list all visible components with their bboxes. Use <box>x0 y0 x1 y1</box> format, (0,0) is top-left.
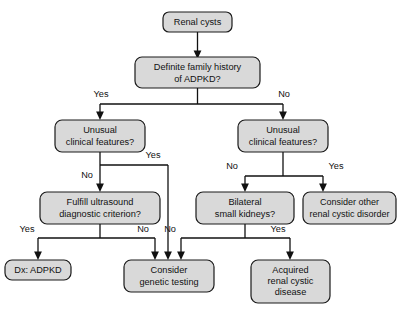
node-consider-other-line1: Consider other <box>320 197 379 207</box>
arrowhead-icon <box>177 252 185 261</box>
flowchart-svg: Yes No No Yes No Yes Yes No No Yes Renal… <box>0 0 399 315</box>
node-bilateral-small-kidneys[interactable]: Bilateral small kidneys? <box>196 192 294 224</box>
edge-label-bilateral-no: No <box>164 224 176 234</box>
node-dx-adpkd[interactable]: Dx: ADPKD <box>5 260 71 280</box>
edge-label-unusual-left-yes: Yes <box>146 150 161 160</box>
edge-label-unusual-left-no: No <box>81 170 93 180</box>
node-family-history-line2: of ADPKD? <box>174 74 220 84</box>
edge-family-history-split <box>96 88 287 120</box>
edge-renal-to-family-history <box>194 32 202 59</box>
node-unusual-left[interactable]: Unusual clinical features? <box>55 120 145 152</box>
edge-unusual-left-no <box>96 152 104 192</box>
node-bilateral-line1: Bilateral <box>228 197 261 207</box>
node-acquired-renal-cystic-disease[interactable]: Acquired renal cystic disease <box>251 260 330 303</box>
node-acquired-line2: renal cystic <box>268 276 314 286</box>
edge-label-unusual-right-no: No <box>226 161 238 171</box>
node-unusual-right-line2: clinical features? <box>249 137 317 147</box>
arrowhead-icon <box>151 252 159 261</box>
arrowhead-icon <box>241 184 249 193</box>
edge-label-bilateral-yes: Yes <box>271 224 286 234</box>
flowchart-container: Yes No No Yes No Yes Yes No No Yes Renal… <box>0 0 399 315</box>
edge-label-family-no: No <box>278 89 290 99</box>
edge-label-family-yes: Yes <box>94 89 109 99</box>
node-ultrasound-line1: Fulfill ultrasound <box>67 197 134 207</box>
node-acquired-line3: disease <box>275 287 307 297</box>
node-unusual-right[interactable]: Unusual clinical features? <box>238 120 328 152</box>
arrowhead-icon <box>96 184 104 193</box>
node-bilateral-line2: small kidneys? <box>215 209 275 219</box>
edge-label-unusual-right-yes: Yes <box>329 161 344 171</box>
node-unusual-right-line1: Unusual <box>266 125 300 135</box>
node-dx-adpkd-label: Dx: ADPKD <box>14 265 62 275</box>
node-consider-other-disorder[interactable]: Consider other renal cystic disorder <box>303 192 396 224</box>
arrowhead-icon <box>279 112 287 121</box>
node-family-history-line1: Definite family history <box>154 62 242 72</box>
node-renal-cysts-label: Renal cysts <box>174 17 222 27</box>
node-genetic-testing-line2: genetic testing <box>139 277 198 287</box>
arrowhead-icon <box>286 252 294 261</box>
node-genetic-testing[interactable]: Consider genetic testing <box>124 260 214 292</box>
node-ultrasound-line2: diagnostic criterion? <box>59 209 141 219</box>
edge-label-ultrasound-yes: Yes <box>20 224 35 234</box>
edge-unusual-right-split <box>241 152 327 192</box>
arrowhead-icon <box>319 184 327 193</box>
node-unusual-left-line1: Unusual <box>83 125 117 135</box>
edge-label-ultrasound-no: No <box>137 224 149 234</box>
node-acquired-line1: Acquired <box>272 265 308 275</box>
node-consider-other-line2: renal cystic disorder <box>309 209 389 219</box>
arrowhead-icon <box>96 112 104 121</box>
node-family-history[interactable]: Definite family history of ADPKD? <box>135 57 260 88</box>
arrowhead-icon <box>34 252 42 261</box>
arrowhead-icon <box>164 252 172 261</box>
node-genetic-testing-line1: Consider <box>151 265 188 275</box>
node-unusual-left-line2: clinical features? <box>66 137 134 147</box>
node-renal-cysts[interactable]: Renal cysts <box>163 12 232 32</box>
node-ultrasound-criterion[interactable]: Fulfill ultrasound diagnostic criterion? <box>40 192 160 224</box>
